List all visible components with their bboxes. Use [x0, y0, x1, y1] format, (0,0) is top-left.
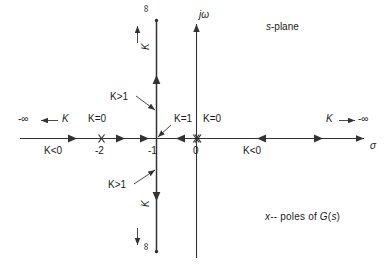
- branch-arrow-down: [153, 192, 161, 201]
- legend-dashes: --: [270, 211, 277, 222]
- real-arrow-left-outer: [68, 135, 77, 143]
- k-equals-one-label: K=1: [174, 114, 192, 124]
- legend-system-g: G: [320, 211, 328, 222]
- k-greater-one-upper: K>1: [110, 92, 128, 102]
- legend-paren-close: ): [337, 211, 341, 222]
- infinity-label-top: ∞: [141, 5, 151, 12]
- neg-infinity-right-label: -∞: [358, 114, 368, 124]
- s-plane-label-suffix: -plane: [271, 21, 299, 32]
- sigma-axis-label: σ: [370, 141, 376, 151]
- k-less-zero-left: K<0: [44, 146, 62, 156]
- branch-arrow-up: [153, 75, 161, 84]
- infinity-label-bottom: ∞: [141, 243, 151, 250]
- k-greater-one-lower: K>1: [108, 180, 126, 190]
- real-arrow-left-mid: [116, 135, 125, 143]
- annotation-leaders: [134, 96, 171, 184]
- leader-k-gt-1-lower: [134, 170, 155, 184]
- real-arrow-right-mid: [257, 135, 266, 143]
- locus-drawing: [0, 0, 389, 277]
- real-arrow-right-inner: [176, 135, 185, 143]
- jomega-axis-label: jω: [199, 10, 209, 20]
- gain-label-left: K: [62, 114, 69, 124]
- tick-label-minus-one: -1: [148, 146, 157, 156]
- real-arrow-right-outer: [314, 135, 323, 143]
- branch-end-top: [155, 19, 158, 22]
- k-zero-at-origin: K=0: [203, 114, 221, 124]
- tick-label-zero: 0: [193, 146, 199, 156]
- branch-end-bottom: [155, 250, 158, 253]
- gain-label-bottom: K: [141, 200, 151, 207]
- gain-label-right: K: [326, 114, 333, 124]
- tick-label-minus-two: -2: [95, 146, 104, 156]
- k-less-zero-right: K<0: [243, 146, 261, 156]
- k-zero-at-minus-two: K=0: [88, 114, 106, 124]
- legend: x-- poles of G(s): [265, 212, 340, 222]
- neg-infinity-left-label: -∞: [18, 114, 28, 124]
- legend-text: poles of: [280, 211, 317, 222]
- real-arrow-left-inner: [140, 135, 149, 143]
- s-plane-label: s-plane: [266, 22, 299, 32]
- leader-k-equals-one: [158, 125, 171, 137]
- gain-label-top: K: [141, 43, 151, 50]
- leader-k-gt-1-upper: [136, 96, 155, 110]
- root-locus-figure: ∞ K jω s-plane K>1 K>1 -∞ K K=0 K=1 K=0 …: [0, 0, 389, 277]
